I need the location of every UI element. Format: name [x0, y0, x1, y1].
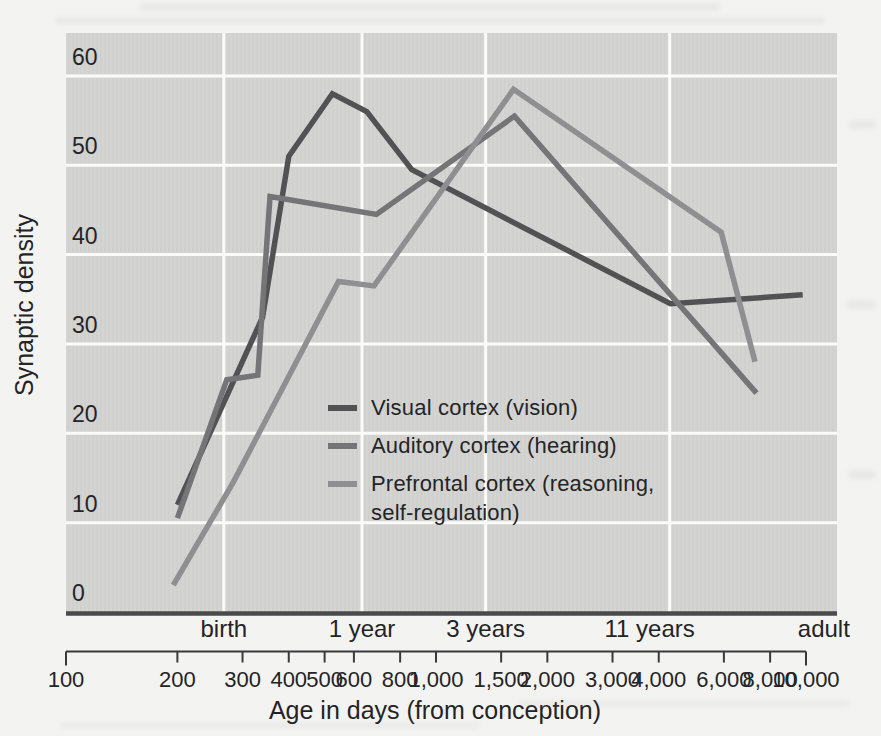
- x-ruler-tick-label-4000: 4,000: [631, 667, 686, 692]
- legend-label-auditory-cortex: Auditory cortex (hearing): [371, 431, 617, 460]
- x-ruler-tick-label-600: 600: [336, 667, 373, 692]
- chart-legend: Visual cortex (vision) Auditory cortex (…: [328, 393, 683, 527]
- y-axis-title: Synaptic density: [10, 213, 38, 396]
- y-axis-tick-label-50: 50: [72, 133, 98, 159]
- legend-swatch-auditory-cortex: [328, 443, 357, 449]
- x-ruler-tick-label-300: 300: [224, 667, 261, 692]
- age-label-3-years: 3 years: [446, 615, 525, 642]
- legend-item-auditory-cortex: Auditory cortex (hearing): [328, 431, 683, 460]
- legend-swatch-prefrontal-cortex: [328, 481, 357, 487]
- x-ruler-tick-label-400: 400: [270, 667, 307, 692]
- age-label-birth: birth: [200, 615, 247, 642]
- y-axis-tick-label-60: 60: [72, 44, 98, 70]
- legend-item-visual-cortex: Visual cortex (vision): [328, 393, 683, 422]
- y-axis-tick-label-30: 30: [72, 312, 98, 338]
- synaptic-density-chart: 0102030405060birth1 year3 years11 yearsa…: [0, 0, 881, 736]
- x-ruler-tick-label-2000: 2,000: [520, 667, 575, 692]
- age-label-1-year: 1 year: [329, 615, 396, 642]
- x-ruler-tick-label-1000: 1,000: [408, 667, 463, 692]
- scanned-book-figure: 0102030405060birth1 year3 years11 yearsa…: [0, 0, 881, 736]
- y-axis-tick-label-10: 10: [72, 491, 98, 517]
- x-ruler-tick-label-10000: 10,000: [772, 667, 839, 692]
- legend-label-visual-cortex: Visual cortex (vision): [371, 393, 578, 422]
- legend-item-prefrontal-cortex: Prefrontal cortex (reasoning, self-regul…: [328, 469, 683, 527]
- y-axis-tick-label-20: 20: [72, 401, 98, 427]
- x-axis-title: Age in days (from conception): [269, 696, 601, 724]
- legend-swatch-visual-cortex: [328, 405, 357, 411]
- x-ruler-tick-label-200: 200: [159, 667, 196, 692]
- y-axis-tick-label-0: 0: [72, 580, 85, 606]
- x-ruler-tick-label-100: 100: [48, 667, 85, 692]
- age-label-11-years: 11 years: [605, 615, 695, 642]
- age-label-adult: adult: [798, 615, 850, 642]
- y-axis-tick-label-40: 40: [72, 223, 98, 249]
- legend-label-prefrontal-cortex: Prefrontal cortex (reasoning, self-regul…: [371, 469, 683, 527]
